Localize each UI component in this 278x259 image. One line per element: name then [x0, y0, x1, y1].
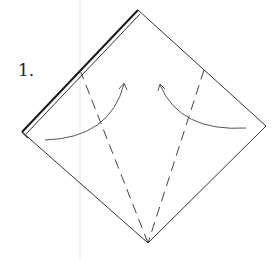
right-valley-fold-line	[148, 70, 204, 243]
origami-diagram	[0, 0, 278, 259]
paper-square	[22, 10, 266, 243]
layered-edge-inner	[26, 14, 140, 134]
left-fold-arrow	[45, 84, 124, 140]
left-valley-fold-line	[80, 70, 148, 243]
right-fold-arrow	[160, 85, 246, 128]
